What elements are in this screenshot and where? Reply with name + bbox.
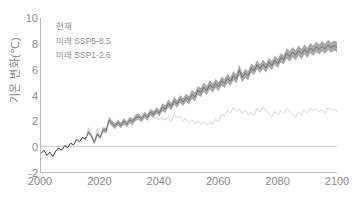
x-tick-label: 2100 (325, 176, 349, 187)
x-tick-label: 2040 (147, 176, 171, 187)
y-axis-tick-labels: -20246810 (8, 0, 38, 203)
legend-item-ssp126: 미래 SSP1-2.6 (56, 51, 111, 60)
x-axis-tick-labels: 200020202040206020802100 (0, 176, 360, 196)
y-tick-label: 0 (12, 142, 38, 153)
y-tick-label: 4 (12, 91, 38, 102)
x-tick-label: 2020 (87, 176, 111, 187)
y-tick-label: 8 (12, 39, 38, 50)
chart-legend: 현재 미래 SSP5-8.5 미래 SSP1-2.6 (56, 22, 111, 60)
y-tick-label: 2 (12, 116, 38, 127)
x-tick-label: 2000 (28, 176, 52, 187)
legend-item-historical: 현재 (56, 22, 111, 31)
temperature-projection-chart: 기온 변화(℃) -20246810 200020202040206020802… (0, 0, 360, 203)
historical-line (41, 137, 85, 156)
x-tick-label: 2080 (265, 176, 289, 187)
y-tick-label: 10 (12, 13, 38, 24)
x-tick-label: 2060 (206, 176, 230, 187)
ssp585-line (85, 45, 337, 143)
legend-item-ssp585: 미래 SSP5-8.5 (56, 37, 111, 46)
y-tick-label: 6 (12, 65, 38, 76)
ssp585-uncertainty-band (85, 40, 337, 145)
